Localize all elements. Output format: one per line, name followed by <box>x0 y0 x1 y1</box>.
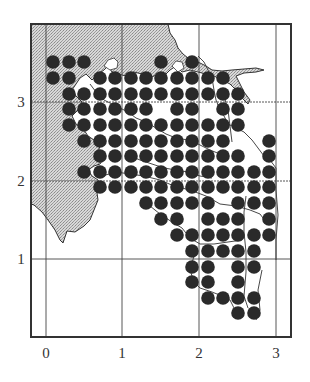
occurrence-dot <box>93 149 107 163</box>
occurrence-dot <box>185 275 199 289</box>
occurrence-dot <box>62 71 76 85</box>
occurrence-dot <box>185 118 199 132</box>
occurrence-dot <box>93 165 107 179</box>
occurrence-dot <box>185 180 199 194</box>
occurrence-dot <box>247 244 261 258</box>
occurrence-dot <box>154 180 168 194</box>
occurrence-dot <box>262 212 276 226</box>
occurrence-dot <box>262 228 276 242</box>
occurrence-dot <box>139 118 153 132</box>
occurrence-dot <box>262 196 276 210</box>
occurrence-dot <box>201 260 215 274</box>
occurrence-dot <box>170 212 184 226</box>
occurrence-dot <box>124 71 138 85</box>
y-tick-label: 1 <box>17 251 25 267</box>
occurrence-dot <box>108 87 122 101</box>
occurrence-dot <box>216 71 230 85</box>
occurrence-dot <box>108 180 122 194</box>
occurrence-dot <box>216 134 230 148</box>
occurrence-dot <box>262 134 276 148</box>
occurrence-dot <box>124 134 138 148</box>
occurrence-dot <box>108 118 122 132</box>
occurrence-dot <box>170 180 184 194</box>
occurrence-dot <box>139 180 153 194</box>
occurrence-dot <box>124 180 138 194</box>
occurrence-dot <box>108 149 122 163</box>
occurrence-dot <box>201 71 215 85</box>
x-tick-label: 0 <box>42 345 50 361</box>
occurrence-dot <box>231 228 245 242</box>
occurrence-dot <box>201 196 215 210</box>
occurrence-dot <box>247 165 261 179</box>
occurrence-dot <box>154 165 168 179</box>
occurrence-dot <box>124 102 138 116</box>
occurrence-dot <box>231 149 245 163</box>
occurrence-dot <box>124 149 138 163</box>
occurrence-dot <box>170 118 184 132</box>
occurrence-dot <box>216 180 230 194</box>
occurrence-dot <box>247 291 261 305</box>
occurrence-dot <box>262 149 276 163</box>
occurrence-dot <box>185 228 199 242</box>
occurrence-dot <box>124 87 138 101</box>
occurrence-dot <box>154 149 168 163</box>
occurrence-dot <box>216 165 230 179</box>
occurrence-dot <box>201 87 215 101</box>
occurrence-dot <box>93 71 107 85</box>
occurrence-dot <box>77 134 91 148</box>
x-tick-label: 3 <box>272 345 280 361</box>
occurrence-dot <box>77 118 91 132</box>
occurrence-dot <box>201 212 215 226</box>
occurrence-dot <box>201 244 215 258</box>
occurrence-dot <box>170 102 184 116</box>
occurrence-dot <box>185 260 199 274</box>
y-tick-label: 2 <box>17 173 25 189</box>
occurrence-dot <box>201 228 215 242</box>
occurrence-dot <box>46 55 60 69</box>
occurrence-dot <box>247 306 261 320</box>
occurrence-dot <box>108 71 122 85</box>
occurrence-dot <box>231 118 245 132</box>
occurrence-dot <box>93 118 107 132</box>
occurrence-dot <box>231 212 245 226</box>
occurrence-dot <box>139 196 153 210</box>
occurrence-dot <box>231 196 245 210</box>
occurrence-dot <box>170 196 184 210</box>
occurrence-dot <box>247 228 261 242</box>
occurrence-dot <box>93 102 107 116</box>
occurrence-dot <box>231 291 245 305</box>
occurrence-dot <box>216 212 230 226</box>
occurrence-dot <box>247 260 261 274</box>
occurrence-dot <box>170 134 184 148</box>
occurrence-dot <box>231 260 245 274</box>
occurrence-dot <box>185 149 199 163</box>
occurrence-dot <box>154 55 168 69</box>
occurrence-dot <box>262 165 276 179</box>
occurrence-dot <box>247 180 261 194</box>
occurrence-dot <box>77 55 91 69</box>
occurrence-dot <box>201 118 215 132</box>
occurrence-dot <box>216 102 230 116</box>
occurrence-dot <box>139 149 153 163</box>
occurrence-dot <box>216 87 230 101</box>
occurrence-dot <box>108 134 122 148</box>
occurrence-dot <box>185 196 199 210</box>
occurrence-dot <box>185 134 199 148</box>
occurrence-dot <box>170 165 184 179</box>
occurrence-dot <box>170 149 184 163</box>
occurrence-dot <box>108 165 122 179</box>
x-tick-label: 1 <box>118 345 126 361</box>
occurrence-dot <box>231 165 245 179</box>
occurrence-dot <box>231 275 245 289</box>
occurrence-dot <box>216 228 230 242</box>
occurrence-dot <box>201 165 215 179</box>
occurrence-dot <box>185 165 199 179</box>
occurrence-dot <box>231 306 245 320</box>
occurrence-dot <box>201 291 215 305</box>
occurrence-dot <box>124 165 138 179</box>
occurrence-dot <box>77 102 91 116</box>
occurrence-dot <box>62 118 76 132</box>
occurrence-dot <box>216 244 230 258</box>
occurrence-dot <box>139 134 153 148</box>
occurrence-dot <box>247 196 261 210</box>
